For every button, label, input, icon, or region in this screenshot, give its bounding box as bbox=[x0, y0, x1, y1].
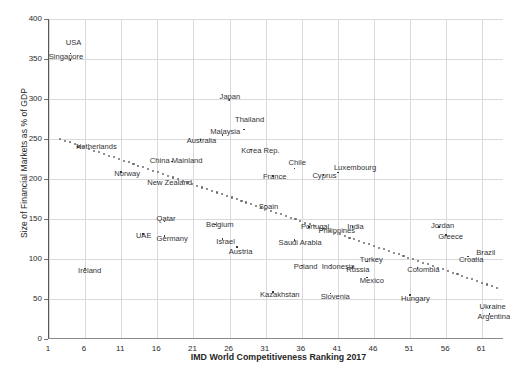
y-tick-label: 250 bbox=[8, 134, 42, 143]
data-point-label: Japan bbox=[220, 93, 241, 101]
data-point-label: Ireland bbox=[78, 267, 101, 275]
gridline-horizontal bbox=[49, 259, 503, 260]
trendline-dot bbox=[206, 188, 208, 190]
trendline-dot bbox=[231, 196, 233, 198]
trendline-dot bbox=[402, 255, 404, 257]
trendline-dot bbox=[98, 151, 100, 153]
trendline-dot bbox=[358, 240, 360, 242]
trendline-dot bbox=[491, 285, 493, 287]
y-tick-mark bbox=[44, 299, 48, 300]
x-axis-title: IMD World Competitiveness Ranking 2017 bbox=[48, 352, 509, 362]
y-tick-mark bbox=[44, 259, 48, 260]
trendline-dot bbox=[69, 141, 71, 143]
data-point-label: Norway bbox=[114, 170, 140, 178]
trendline-dot bbox=[226, 195, 228, 197]
gridline-horizontal bbox=[49, 299, 503, 300]
trendline-dot bbox=[290, 217, 292, 219]
gridline-horizontal bbox=[49, 219, 503, 220]
data-point-label: Netherlands bbox=[76, 143, 117, 151]
y-tick-mark bbox=[44, 339, 48, 340]
data-point-label: Colombia bbox=[407, 266, 439, 274]
trendline-dot bbox=[437, 267, 439, 269]
trendline-dot bbox=[59, 138, 61, 140]
data-point-label: Korea Rep. bbox=[241, 147, 279, 155]
data-point-label: Croatia bbox=[459, 256, 483, 264]
data-point-label: Australia bbox=[187, 137, 217, 145]
trendline-dot bbox=[476, 280, 478, 282]
data-point-label: Argentina bbox=[478, 313, 510, 321]
data-point-label: Poland bbox=[294, 263, 318, 271]
trendline-dot bbox=[339, 233, 341, 235]
trendline-dot bbox=[167, 175, 169, 177]
data-point-label: Turkey bbox=[360, 256, 383, 264]
data-point-label: Cyprus bbox=[312, 172, 336, 180]
trendline-dot bbox=[334, 232, 336, 234]
data-point-label: Greece bbox=[438, 233, 463, 241]
data-point-label: USA bbox=[66, 39, 82, 47]
data-point-label: Hungary bbox=[401, 295, 430, 303]
trendline-dot bbox=[132, 163, 134, 165]
data-point-label: Austria bbox=[229, 248, 253, 256]
data-point-label: Luxembourg bbox=[334, 164, 376, 172]
trendline-dot bbox=[471, 278, 473, 280]
plot-area: USASingaporeJapanThailandMalaysiaAustral… bbox=[48, 19, 503, 339]
trendline-dot bbox=[452, 272, 454, 274]
y-tick-mark bbox=[44, 59, 48, 60]
data-point-label: Germany bbox=[157, 235, 188, 243]
y-tick-label: 0 bbox=[8, 334, 42, 343]
trendline-dot bbox=[496, 287, 498, 289]
y-tick-mark bbox=[44, 99, 48, 100]
data-point-label: Russia bbox=[346, 266, 369, 274]
gridline-horizontal bbox=[49, 99, 503, 100]
trendline-dot bbox=[383, 248, 385, 250]
y-axis-title: Size of Financial Markets as % of GDP bbox=[19, 53, 29, 273]
trendline-dot bbox=[142, 166, 144, 168]
trendline-dot bbox=[363, 242, 365, 244]
trendline-dot bbox=[275, 212, 277, 214]
data-point-label: Ukraine bbox=[480, 303, 506, 311]
trendline-dot bbox=[353, 238, 355, 240]
data-point-label: New Zealand bbox=[147, 179, 192, 187]
trendline-dot bbox=[285, 215, 287, 217]
trendline-dot bbox=[78, 145, 80, 147]
trendline-dot bbox=[182, 180, 184, 182]
trendline-dot bbox=[255, 205, 257, 207]
trendline-dot bbox=[64, 140, 66, 142]
trendline-dot bbox=[398, 253, 400, 255]
trendline-dot bbox=[260, 206, 262, 208]
trendline-dot bbox=[123, 160, 125, 162]
gridline-horizontal bbox=[49, 139, 503, 140]
trendline-dot bbox=[348, 237, 350, 239]
trendline-dot bbox=[177, 178, 179, 180]
data-point-label: Chile bbox=[289, 159, 306, 167]
trendline-dot bbox=[388, 250, 390, 252]
trendline-dot bbox=[137, 165, 139, 167]
data-point-label: Singapore bbox=[49, 53, 84, 61]
trendline-dot bbox=[456, 273, 458, 275]
trendline-dot bbox=[93, 150, 95, 152]
trendline-dot bbox=[486, 283, 488, 285]
data-point bbox=[337, 172, 339, 174]
data-point-label: Thailand bbox=[235, 116, 264, 124]
trendline-dot bbox=[368, 243, 370, 245]
trendline-dot bbox=[461, 275, 463, 277]
trendline-dot bbox=[344, 235, 346, 237]
data-point-label: France bbox=[263, 173, 287, 181]
trendline-dot bbox=[294, 218, 296, 220]
trendline-dot bbox=[186, 181, 188, 183]
trendline-dot bbox=[147, 168, 149, 170]
trendline-dot bbox=[447, 270, 449, 272]
trendline-dot bbox=[152, 170, 154, 172]
data-point-label: Kazakhstan bbox=[260, 291, 300, 299]
data-point bbox=[243, 129, 245, 131]
y-tick-label: 300 bbox=[8, 94, 42, 103]
trendline-dot bbox=[128, 161, 130, 163]
data-point-label: Slovenia bbox=[321, 293, 350, 301]
data-point-label: Belgium bbox=[206, 221, 233, 229]
trendline-dot bbox=[240, 200, 242, 202]
trendline-dot bbox=[162, 173, 164, 175]
trendline-dot bbox=[393, 252, 395, 254]
trendline-dot bbox=[74, 143, 76, 145]
trendline-dot bbox=[216, 191, 218, 193]
